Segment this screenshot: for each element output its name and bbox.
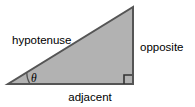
opposite-label: opposite [140, 41, 183, 53]
adjacent-label: adjacent [68, 91, 112, 103]
angle-theta-label: θ [31, 72, 37, 84]
hypotenuse-label: hypotenuse [12, 34, 71, 46]
figure-canvas: θ hypotenuse opposite adjacent [0, 0, 195, 107]
right-triangle-figure: θ hypotenuse opposite adjacent [0, 0, 195, 107]
